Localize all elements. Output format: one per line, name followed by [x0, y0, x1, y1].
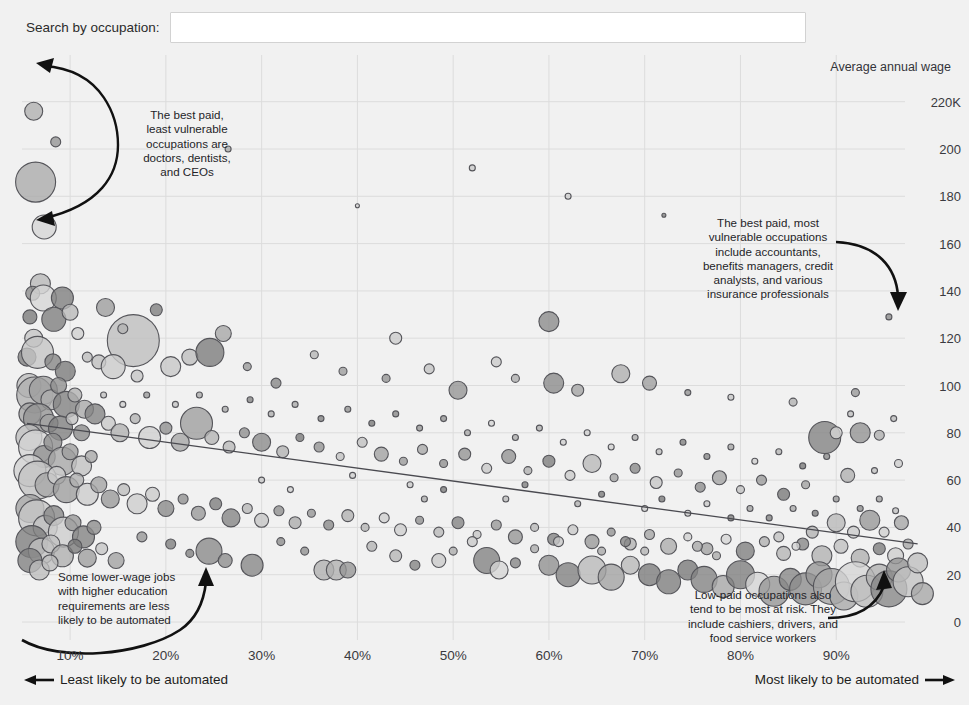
y-tick-180: 180: [939, 189, 961, 204]
axis-note-most: Most likely to be automated: [755, 672, 955, 687]
x-tick-50%: 50%: [440, 648, 467, 663]
automation-wage-bubble-chart: Search by occupation: Average annual wag…: [0, 0, 969, 705]
y-tick-100: 100: [939, 378, 961, 393]
annotation-bottom-left: Some lower-wage jobs with higher educati…: [58, 570, 218, 627]
y-tick-120: 120: [939, 331, 961, 346]
axis-note-least: Least likely to be automated: [24, 672, 228, 687]
y-tick-0: 0: [954, 615, 961, 630]
y-tick-200: 200: [939, 142, 961, 157]
y-axis-title: Average annual wage: [830, 60, 951, 74]
y-tick-220: 220K: [931, 94, 961, 109]
x-tick-40%: 40%: [344, 648, 371, 663]
x-tick-20%: 20%: [152, 648, 179, 663]
x-tick-10%: 10%: [57, 648, 84, 663]
trendline: [27, 423, 918, 544]
arrowhead-top-right: [890, 292, 907, 311]
x-tick-70%: 70%: [631, 648, 658, 663]
x-tick-80%: 80%: [727, 648, 754, 663]
y-tick-140: 140: [939, 283, 961, 298]
y-tick-20: 20: [947, 567, 961, 582]
left-arrow-icon: [24, 674, 54, 686]
x-tick-90%: 90%: [823, 648, 850, 663]
x-tick-30%: 30%: [248, 648, 275, 663]
y-tick-60: 60: [947, 473, 961, 488]
annotation-top-left: The best paid, least vulnerable occupati…: [122, 108, 252, 179]
arrowhead-top-left-upper: [36, 58, 54, 73]
y-tick-160: 160: [939, 236, 961, 251]
axis-note-most-label: Most likely to be automated: [755, 672, 919, 687]
y-tick-80: 80: [947, 425, 961, 440]
y-tick-40: 40: [947, 520, 961, 535]
annotation-top-right: The best paid, most vulnerable occupatio…: [688, 216, 848, 302]
right-arrow-icon: [925, 674, 955, 686]
axis-note-least-label: Least likely to be automated: [60, 672, 228, 687]
x-tick-60%: 60%: [535, 648, 562, 663]
annotation-bottom-right: Low-paid occupations also tend to be mos…: [668, 588, 858, 645]
